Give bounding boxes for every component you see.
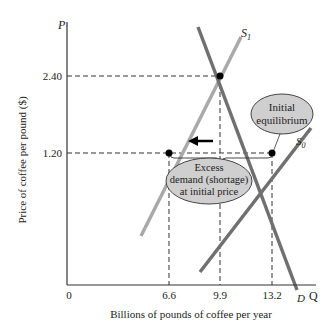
equilibrium-point-initial [269, 150, 276, 157]
equilibrium-point-new [217, 73, 224, 80]
x-axis-title: Billions of pounds of coffee per year [110, 308, 272, 320]
supply-demand-chart: Initial equilibrium Excess demand (short… [0, 0, 336, 325]
excess-label-2: demand (shortage) [170, 174, 249, 186]
x-tick-0: 0 [66, 289, 72, 301]
x-tick-9.9: 9.9 [213, 289, 227, 301]
initial-label-2: equilibrium [256, 114, 308, 126]
q-axis-symbol: Q [309, 289, 318, 303]
callout-leader [273, 134, 280, 152]
p-axis-symbol: P [57, 18, 66, 32]
excess-label-3: at initial price [180, 186, 239, 197]
s1-label: S1 [241, 26, 251, 42]
y-tick-1.20: 1.20 [43, 147, 63, 159]
point-s1-initial-price [166, 150, 173, 157]
y-axis-title: Price of coffee per pound ($) [16, 96, 29, 223]
x-tick-6.6: 6.6 [162, 289, 176, 301]
initial-label-1: Initial [269, 101, 295, 113]
y-tick-2.40: 2.40 [43, 70, 63, 82]
x-tick-13.2: 13.2 [262, 289, 281, 301]
excess-label-1: Excess [194, 162, 223, 173]
d-label: D [296, 292, 305, 304]
supply-curve-s1 [141, 37, 241, 236]
